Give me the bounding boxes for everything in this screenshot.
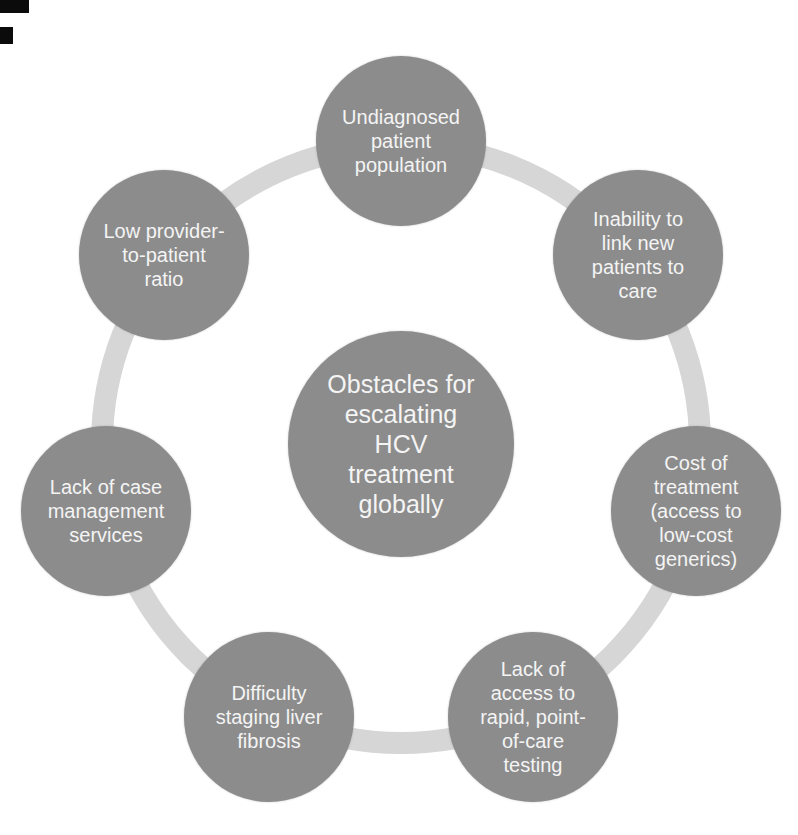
center-obstacles-node: Obstacles for escalating HCV treatment g… [288, 331, 514, 557]
node-staging-liver-fibrosis: Difficulty staging liver fibrosis [184, 632, 354, 802]
node-provider-to-patient-ratio-label: Low provider- to-patient ratio [103, 219, 224, 291]
node-link-patients-to-care: Inability to link new patients to care [553, 170, 723, 340]
node-staging-liver-fibrosis-label: Difficulty staging liver fibrosis [216, 681, 323, 753]
node-cost-of-treatment: Cost of treatment (access to low-cost ge… [611, 426, 781, 596]
scan-artifact-mark-bottom [0, 27, 13, 44]
node-provider-to-patient-ratio: Low provider- to-patient ratio [79, 170, 249, 340]
node-cost-of-treatment-label: Cost of treatment (access to low-cost ge… [650, 451, 741, 571]
center-obstacles-label: Obstacles for escalating HCV treatment g… [327, 369, 474, 519]
node-point-of-care-testing: Lack of access to rapid, point- of-care … [448, 632, 618, 802]
node-case-management-services-label: Lack of case management services [48, 475, 165, 547]
scan-artifact-mark-top [0, 0, 29, 13]
node-case-management-services: Lack of case management services [21, 426, 191, 596]
node-point-of-care-testing-label: Lack of access to rapid, point- of-care … [480, 657, 586, 777]
node-undiagnosed-population-label: Undiagnosed patient population [342, 105, 460, 177]
hcv-obstacles-diagram: Obstacles for escalating HCV treatment g… [0, 0, 798, 835]
node-link-patients-to-care-label: Inability to link new patients to care [592, 207, 684, 303]
node-undiagnosed-population: Undiagnosed patient population [316, 56, 486, 226]
